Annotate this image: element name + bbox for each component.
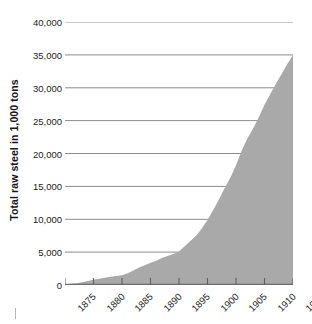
x-tick-label: 1880 [104,291,127,314]
x-tick-label: 1910 [275,291,298,314]
x-tick-label: 1905 [246,291,269,314]
x-tick-label: 1895 [189,291,212,314]
steel-production-area-chart: Total raw steel in 1,000 tons 40,000 35,… [0,0,312,324]
corner-mark [15,308,16,319]
x-tick-label: 1915 [303,291,312,314]
x-tick-label: 1890 [161,291,184,314]
x-tick-label: 1900 [218,291,241,314]
x-tick-label: 1875 [75,291,98,314]
x-tick-label: 1885 [132,291,155,314]
x-axis-tick-labels: 1875 1880 1885 1890 1895 1900 1905 1910 … [0,0,312,324]
